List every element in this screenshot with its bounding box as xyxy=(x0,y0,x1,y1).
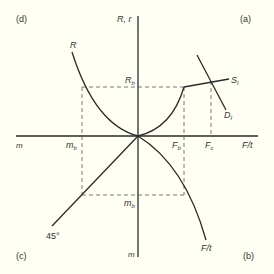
marker-mb-bottom: mb xyxy=(124,198,136,209)
s-curve xyxy=(184,79,229,87)
curve-label-d: DI xyxy=(224,110,233,121)
line-45 xyxy=(52,136,138,226)
curve-label-r: R xyxy=(70,40,77,50)
four-quadrant-diagram: (d) (a) (c) (b) R, r m m F/t R SI DI F/t… xyxy=(0,0,274,274)
axis-label-m-left: m xyxy=(16,141,23,150)
marker-fc: Fc xyxy=(205,140,214,151)
quadrant-label-d: (d) xyxy=(16,14,27,24)
rising-curve xyxy=(138,87,184,136)
marker-rb: Rb xyxy=(125,75,136,86)
quadrant-label-a: (a) xyxy=(240,14,251,24)
ft-curve xyxy=(138,136,206,240)
axis-label-r-r: R, r xyxy=(117,14,133,24)
axis-label-m-bottom: m xyxy=(128,250,135,259)
marker-mb-left: mb xyxy=(66,140,78,151)
axis-label-ft: F/t xyxy=(242,140,253,150)
quadrant-label-c: (c) xyxy=(16,251,27,261)
label-45-degree: 45° xyxy=(46,231,60,241)
curve-label-ft: F/t xyxy=(201,243,212,253)
quadrant-label-b: (b) xyxy=(243,251,254,261)
marker-fb: Fb xyxy=(172,140,182,151)
curve-label-s: SI xyxy=(231,75,239,86)
d-curve xyxy=(197,55,226,110)
